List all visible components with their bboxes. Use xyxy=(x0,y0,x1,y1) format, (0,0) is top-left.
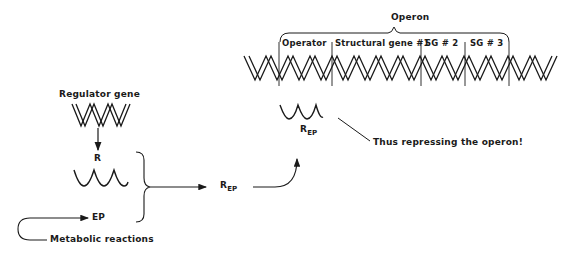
effector-label: EP xyxy=(92,212,105,222)
operon-dna-helix xyxy=(244,56,557,80)
binding-to-operon-arrow xyxy=(253,159,297,187)
annotation-leader-line xyxy=(338,118,370,141)
bound-complex-label: REP xyxy=(300,124,317,134)
grouping-brace xyxy=(136,152,150,222)
complex-label-sub: EP xyxy=(227,185,237,193)
complex-label: REP xyxy=(220,180,237,190)
bound-repressor-strand xyxy=(280,105,323,119)
segment-label-sg-2: SG # 2 xyxy=(425,38,458,48)
metabolic-reactions-label: Metabolic reactions xyxy=(50,234,154,244)
segment-label-operator: Operator xyxy=(282,38,327,48)
repressor-protein-strand xyxy=(74,170,128,186)
regulator-gene-helix xyxy=(72,104,130,126)
segment-label-structural-gene-1: Structural gene #1 xyxy=(335,38,430,48)
annotation-text: Thus repressing the operon! xyxy=(373,137,523,147)
repressor-label: R xyxy=(94,153,101,163)
regulator-gene-label: Regulator gene xyxy=(59,89,140,99)
operon-title: Operon xyxy=(391,12,429,22)
segment-label-sg-3: SG # 3 xyxy=(470,38,503,48)
bound-complex-label-sub: EP xyxy=(307,129,317,137)
